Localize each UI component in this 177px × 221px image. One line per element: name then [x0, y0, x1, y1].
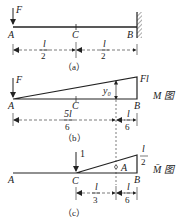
panel-c: 1 A l 2 M̄ 图 A C B l 3 l 6 （c） — [7, 143, 176, 218]
end-value-den: 2 — [141, 157, 146, 167]
point-a: A — [7, 174, 15, 185]
area-label: A — [120, 162, 128, 173]
point-c: C — [72, 100, 79, 111]
dim-1-den: 2 — [41, 51, 46, 61]
dim-2-num: l — [127, 108, 130, 119]
diagram-label: M 图 — [152, 90, 176, 101]
dim-1-num: l — [95, 181, 98, 192]
force-label: F — [15, 74, 23, 85]
point-b: B — [127, 29, 133, 40]
caption-b: （b） — [63, 133, 86, 143]
dim-2-den: 6 — [125, 195, 130, 205]
dim-2-den: 6 — [125, 122, 130, 132]
beam-diagram: F A C B l 2 l 2 （a） F Fl y₀ M 图 A C — [0, 0, 177, 221]
dim-1-num: l — [43, 38, 46, 49]
dim-1-den: 6 — [65, 122, 70, 132]
point-b: B — [134, 100, 140, 111]
point-b: B — [134, 174, 140, 185]
dim-1-num: 5l — [64, 108, 72, 119]
panel-a: F A C B l 2 l 2 （a） — [7, 4, 142, 72]
ordinate-y0: y₀ — [102, 85, 111, 96]
diagram-label: M̄ 图 — [152, 164, 176, 175]
dim-1-den: 3 — [93, 195, 98, 205]
point-c: C — [72, 175, 79, 186]
unit-load: 1 — [80, 148, 85, 159]
dim-2-den: 2 — [101, 51, 106, 61]
point-a: A — [7, 100, 15, 111]
fixed-support — [137, 12, 142, 38]
caption-c: （c） — [63, 208, 85, 218]
force-label: F — [15, 4, 23, 15]
moment-diagram — [13, 77, 137, 99]
caption-a: （a） — [63, 62, 85, 72]
unit-moment-diagram — [76, 155, 137, 173]
end-value: Fl — [139, 73, 149, 84]
dim-2-num: l — [103, 38, 106, 49]
point-a: A — [7, 29, 15, 40]
point-c: C — [72, 29, 79, 40]
dim-2-num: l — [127, 181, 130, 192]
end-value-num: l — [142, 143, 145, 154]
